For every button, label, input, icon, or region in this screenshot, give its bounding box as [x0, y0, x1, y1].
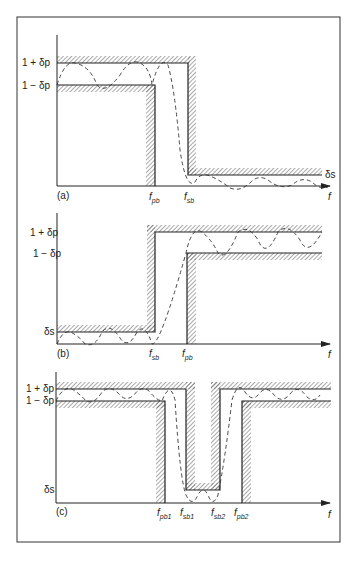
- label-fsb1: fsb1: [180, 507, 194, 520]
- lower-bound-line-right: [242, 401, 331, 503]
- hatch-lower-passband: [187, 253, 322, 260]
- label-lower: 1 − δp: [33, 248, 62, 259]
- panel-label: (b): [57, 348, 69, 359]
- hatch-stopband: [186, 483, 220, 490]
- axis-label-f: f: [328, 191, 332, 202]
- hatch-pb1-edge: [156, 401, 165, 503]
- label-stop: δs: [44, 326, 55, 337]
- label-upper: 1 + δp: [22, 57, 51, 68]
- hatch-lower-passband: [57, 85, 155, 92]
- panel-label: (c): [56, 506, 68, 517]
- hatch-upper-passband-left: [56, 382, 195, 389]
- lower-bound-line: [187, 253, 322, 344]
- hatch-pb2-edge: [242, 401, 251, 503]
- axis-label-f: f: [328, 349, 332, 360]
- lower-bound-line: [57, 85, 155, 186]
- label-lower: 1 − δp: [22, 80, 51, 91]
- hatch-passband-edge: [146, 85, 155, 186]
- panel-a-lowpass: 1 + δp 1 − δp δs (a) fpb fsb f: [22, 35, 336, 205]
- label-fpb: fpb: [182, 348, 193, 362]
- lower-bound-line-left: [56, 401, 165, 503]
- hatch-lower-passband-left: [56, 401, 165, 408]
- label-fpb: fpb: [149, 191, 160, 205]
- hatch-transition-upper: [188, 56, 196, 175]
- label-fpb1: fpb1: [157, 507, 172, 521]
- label-upper: 1 + δp: [26, 383, 55, 394]
- filter-specification-diagram: 1 + δp 1 − δp δs (a) fpb fsb f 1 + δp 1 …: [0, 0, 357, 567]
- label-fsb2: fsb2: [211, 507, 225, 520]
- hatch-stopband: [188, 168, 322, 175]
- label-fpb2: fpb2: [234, 507, 249, 521]
- hatch-stopband-right-edge: [211, 382, 220, 490]
- hatch-stopband-left-edge: [186, 382, 195, 490]
- panel-c-bandstop: 1 + δp 1 − δp δs (c) fpb1 fsb1 fsb2 fpb2…: [26, 372, 332, 521]
- hatch-upper-passband: [57, 56, 190, 63]
- label-fsb: fsb: [184, 191, 194, 204]
- label-lower: 1 − δp: [26, 395, 55, 406]
- panel-b-highpass: 1 + δp 1 − δp δs (b) fsb fpb f: [30, 213, 332, 362]
- label-fsb: fsb: [149, 348, 159, 361]
- label-upper: 1 + δp: [30, 227, 59, 238]
- axis-label-f: f: [328, 509, 332, 520]
- hatch-upper-passband-right: [211, 382, 331, 389]
- hatch-stopband: [57, 325, 155, 332]
- label-stop: δs: [44, 484, 55, 495]
- hatch-transition-upper: [147, 225, 155, 332]
- panel-label: (a): [57, 190, 69, 201]
- hatch-passband-edge: [187, 253, 196, 344]
- label-stop: δs: [325, 169, 336, 180]
- hatch-upper-passband: [147, 225, 322, 232]
- hatch-lower-passband-right: [242, 401, 331, 408]
